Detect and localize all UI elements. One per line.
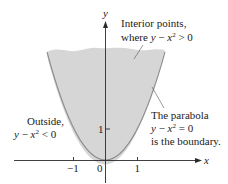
- x-tick-label-minus-1: −1: [67, 162, 79, 174]
- boundary-annotation-line1: The parabola: [151, 109, 209, 121]
- outside-annotation-line1: Outside,: [27, 115, 64, 127]
- y-axis-arrow-icon: [103, 21, 108, 28]
- diagram-canvas: x y −1 0 1 1 Interior points, where y − …: [0, 0, 228, 184]
- x-axis-label: x: [203, 154, 209, 166]
- boundary-annotation-line2: y − x2 = 0: [150, 122, 194, 134]
- outside-annotation-line2: y − x2 < 0: [13, 128, 57, 140]
- x-tick-label-1: 1: [135, 162, 141, 174]
- parabola-region-diagram: x y −1 0 1 1 Interior points, where y − …: [0, 0, 228, 184]
- interior-annotation-line1: Interior points,: [121, 17, 187, 29]
- boundary-leader-line: [152, 87, 164, 108]
- x-axis-arrow-icon: [195, 158, 202, 163]
- x-tick-label-0: 0: [97, 162, 103, 174]
- y-axis-label: y: [102, 7, 108, 19]
- interior-annotation-line2: where y − x2 > 0: [121, 31, 193, 43]
- y-tick-label-1: 1: [98, 123, 104, 135]
- boundary-annotation-line3: is the boundary.: [151, 135, 221, 147]
